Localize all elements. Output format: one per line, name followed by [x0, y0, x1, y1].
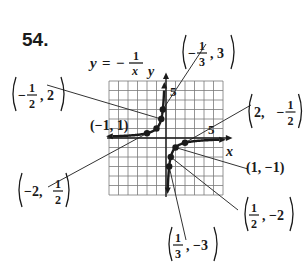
- y-axis-label: y: [146, 64, 155, 79]
- y-tick-label: 5: [170, 84, 177, 99]
- data-point: [172, 144, 178, 150]
- svg-text:2: 2: [288, 114, 294, 128]
- x-tick-label: 5: [208, 122, 215, 137]
- svg-text:2: 2: [251, 217, 257, 231]
- svg-text:(1, −1): (1, −1): [246, 160, 285, 176]
- equation-label: y = − 1 x: [88, 49, 143, 78]
- svg-text:2,: 2,: [254, 105, 265, 120]
- svg-text:x: x: [131, 64, 138, 78]
- svg-text:, −3: , −3: [186, 238, 208, 253]
- point-labels: −13, 3−12, 2(−1, 1)−2, 122, −12(1, −1)12…: [13, 35, 302, 261]
- problem-number: 54.: [22, 29, 48, 50]
- svg-text:(−1, 1): (−1, 1): [90, 118, 129, 134]
- point-label: −13, 3: [183, 35, 234, 69]
- svg-text:1: 1: [288, 98, 294, 112]
- svg-text:−2,: −2,: [24, 184, 42, 199]
- svg-text:, 3: , 3: [210, 46, 224, 61]
- svg-text:1: 1: [133, 49, 139, 63]
- svg-text:y: y: [88, 55, 97, 71]
- svg-text:=: =: [102, 55, 111, 71]
- svg-text:1: 1: [199, 39, 205, 53]
- data-point: [160, 106, 166, 112]
- svg-text:−: −: [277, 105, 285, 120]
- svg-text:−: −: [18, 88, 26, 103]
- svg-text:−: −: [116, 55, 125, 71]
- data-point: [144, 130, 150, 136]
- svg-text:1: 1: [251, 201, 257, 215]
- svg-text:1: 1: [175, 231, 181, 245]
- data-point: [168, 154, 174, 160]
- point-label: (1, −1): [246, 160, 285, 176]
- point-label: −2, 12: [19, 173, 69, 207]
- point-label: 13, −3: [169, 227, 217, 261]
- point-label: (−1, 1): [90, 118, 129, 134]
- data-point: [158, 116, 164, 122]
- x-axis-label: x: [225, 144, 233, 159]
- svg-text:, −2: , −2: [262, 208, 284, 223]
- data-point: [153, 125, 159, 131]
- svg-text:−: −: [188, 46, 196, 61]
- svg-text:, 2: , 2: [40, 88, 54, 103]
- svg-text:2: 2: [55, 193, 61, 207]
- point-label: 2, −12: [249, 94, 302, 128]
- data-point: [166, 163, 172, 169]
- svg-text:3: 3: [175, 247, 181, 261]
- point-label: 12, −2: [245, 197, 293, 231]
- svg-text:3: 3: [199, 55, 205, 69]
- graph-figure: 54. y = − 1 x y x 5 5 −13, 3−12, 2(−1, 1…: [0, 0, 304, 272]
- svg-text:1: 1: [55, 177, 61, 191]
- svg-text:2: 2: [29, 97, 35, 111]
- point-label: −12, 2: [13, 77, 64, 111]
- svg-text:1: 1: [29, 81, 35, 95]
- data-point: [182, 140, 188, 146]
